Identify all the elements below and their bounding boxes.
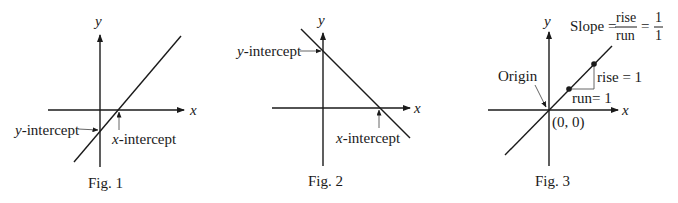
slope-prefix: Slope = — [570, 18, 616, 34]
figure-2: x y y-intercept x-intercept Fig. 2 — [235, 12, 421, 189]
fig3-slope-formula: Slope = rise run = 1 1 — [570, 10, 663, 43]
fig2-caption: Fig. 2 — [308, 173, 343, 189]
fig1-x-label: x — [189, 102, 197, 118]
fig1-y-intercept-arrow — [78, 129, 98, 130]
fig3-origin-arrow — [535, 85, 546, 107]
fig3-x-label: x — [621, 102, 629, 118]
fig2-line — [301, 29, 410, 138]
slope-fraction-numerator: rise — [616, 10, 636, 25]
fig1-caption: Fig. 1 — [88, 175, 123, 191]
fig3-origin-coords: (0, 0) — [552, 114, 585, 131]
fig3-rise-label: rise = 1 — [597, 69, 642, 85]
fig2-y-label: y — [316, 12, 325, 28]
slope-value-numerator: 1 — [655, 10, 662, 25]
fig3-run-label: run= 1 — [572, 90, 612, 106]
diagram-canvas: x y y-intercept x-intercept Fig. 1 x y y… — [0, 0, 678, 203]
fig1-y-label: y — [93, 13, 102, 29]
fig3-origin-label: Origin — [498, 68, 538, 84]
fig3-point-a — [566, 86, 572, 92]
fig3-point-b — [591, 61, 597, 67]
fig2-y-intercept-label: y-intercept — [235, 43, 302, 59]
fig1-y-intercept-label: y-intercept — [13, 122, 80, 138]
figure-1: x y y-intercept x-intercept Fig. 1 — [13, 13, 197, 191]
fig1-x-intercept-label: x-intercept — [111, 131, 177, 147]
figure-3: x y Origin (0, 0) rise = 1 run= 1 Slope … — [488, 10, 663, 189]
fig3-caption: Fig. 3 — [535, 173, 570, 189]
slope-equals: = — [641, 18, 649, 34]
slope-fraction-denominator: run — [616, 28, 635, 43]
fig3-y-label: y — [542, 13, 551, 29]
fig2-x-intercept-label: x-intercept — [335, 130, 401, 146]
fig2-x-label: x — [413, 100, 421, 116]
slope-value-denominator: 1 — [655, 28, 662, 43]
